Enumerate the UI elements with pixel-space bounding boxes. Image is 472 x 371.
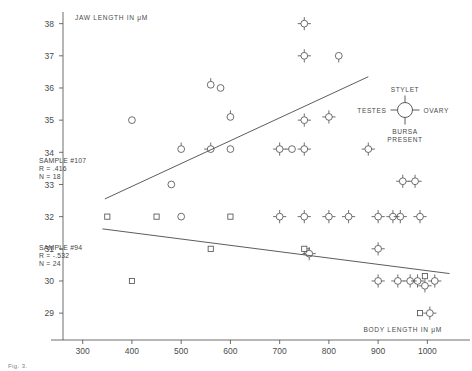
y-tick-label: 38 (45, 19, 55, 29)
data-point-circle (417, 213, 424, 220)
data-point-circle (276, 146, 283, 153)
legend-label-testes: TESTES (357, 107, 386, 114)
data-point-square (154, 214, 159, 219)
y-tick-label: 35 (45, 115, 55, 125)
data-point-circle (207, 81, 214, 88)
data-point-square (208, 246, 213, 251)
data-point-circle (412, 178, 419, 185)
data-point-circle (345, 213, 352, 220)
data-point-circle (399, 178, 406, 185)
y-tick-label: 30 (45, 276, 55, 286)
data-point-circle (394, 278, 401, 285)
data-point-square (105, 214, 110, 219)
data-point-circle (426, 310, 433, 317)
data-point-circle (276, 213, 283, 220)
regression-line (102, 229, 449, 274)
data-point-circle (375, 278, 382, 285)
x-tick-label: 700 (273, 346, 287, 356)
figure-caption: Fig. 3. (8, 363, 27, 369)
annotation-lower-n: N = 24 (39, 260, 61, 267)
y-tick-label: 37 (45, 51, 55, 61)
data-point-circle (217, 85, 224, 92)
data-point-circle (375, 213, 382, 220)
data-point-circle (365, 146, 372, 153)
data-point-circle (301, 20, 308, 27)
legend-label-bursa-1: BURSA (392, 128, 418, 135)
y-tick-label: 34 (45, 148, 55, 158)
data-point-circle (335, 52, 342, 59)
data-point-circle (422, 282, 429, 289)
x-axis-title: BODY LENGTH IN μM (363, 326, 442, 334)
data-point-circle (325, 114, 332, 121)
scatter-plot-figure: 3837363534333231302930040050060070080090… (0, 0, 472, 371)
y-tick-label: 29 (45, 308, 55, 318)
data-point-square (129, 278, 134, 283)
data-point-circle (301, 213, 308, 220)
x-tick-label: 600 (223, 346, 237, 356)
data-point-circle (431, 278, 438, 285)
data-point-circle (168, 181, 175, 188)
legend-label-ovary: OVARY (424, 107, 449, 114)
annotation-lower-sample: SAMPLE #94 (39, 244, 82, 251)
annotation-upper-r: R = .416 (39, 165, 67, 172)
data-point-circle (301, 52, 308, 59)
data-point-square (417, 311, 422, 316)
data-point-square (422, 274, 427, 279)
data-point-circle (325, 213, 332, 220)
data-point-circle (301, 146, 308, 153)
y-tick-label: 32 (45, 212, 55, 222)
data-point-circle (227, 146, 234, 153)
data-point-circle (178, 146, 185, 153)
legend-label-stylet: STYLET (391, 86, 420, 93)
plot-canvas: 3837363534333231302930040050060070080090… (0, 0, 472, 371)
x-tick-label: 900 (371, 346, 385, 356)
annotation-upper-n: N = 18 (39, 173, 61, 180)
data-point-circle (178, 213, 185, 220)
y-tick-label: 36 (45, 83, 55, 93)
annotation-lower-r: R = -.532 (39, 252, 69, 259)
x-tick-label: 1000 (418, 346, 437, 356)
data-point-circle (375, 245, 382, 252)
x-tick-label: 400 (125, 346, 139, 356)
legend-symbol-circle (398, 103, 413, 118)
data-point-circle (129, 117, 136, 124)
annotation-upper-sample: SAMPLE #107 (39, 157, 86, 164)
data-point-square (302, 246, 307, 251)
x-tick-label: 500 (174, 346, 188, 356)
legend-label-bursa-2: PRESENT (387, 136, 422, 143)
x-tick-label: 800 (322, 346, 336, 356)
data-point-circle (301, 117, 308, 124)
y-axis-title: JAW LENGTH IN μM (75, 14, 148, 22)
regression-line (105, 77, 368, 199)
y-tick-label: 33 (45, 180, 55, 190)
data-point-circle (289, 146, 296, 153)
data-point-circle (227, 114, 234, 121)
x-tick-label: 300 (76, 346, 90, 356)
data-point-square (228, 214, 233, 219)
